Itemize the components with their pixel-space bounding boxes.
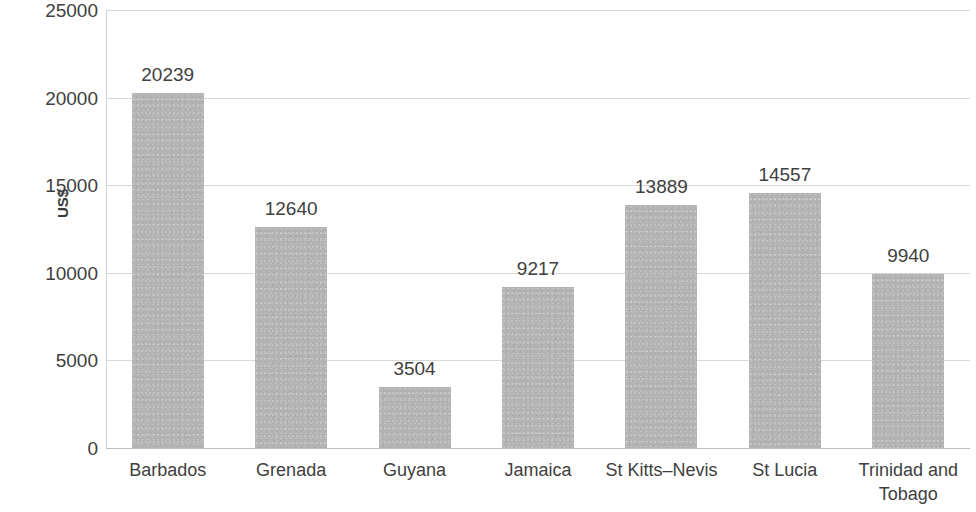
x-category-label: St Lucia — [723, 458, 847, 482]
y-tick-label: 0 — [12, 439, 98, 458]
x-category-label: Grenada — [229, 458, 353, 482]
x-axis-category-labels: BarbadosGrenadaGuyanaJamaicaSt Kitts–Nev… — [106, 458, 970, 512]
y-axis-tick-labels: 0500010000150002000025000 — [0, 0, 98, 512]
y-tick-label: 20000 — [12, 89, 98, 108]
bar — [132, 93, 204, 448]
y-tick-label: 10000 — [12, 264, 98, 283]
bar — [872, 274, 944, 448]
bar-series: 20239126403504921713889145579940 — [106, 10, 970, 448]
bar-value-label: 9940 — [848, 246, 968, 265]
bar-value-label: 20239 — [108, 65, 228, 84]
bar-value-label: 13889 — [601, 177, 721, 196]
bar-value-label: 12640 — [231, 199, 351, 218]
gridline — [106, 448, 970, 449]
bar — [255, 227, 327, 448]
bar-value-label: 3504 — [355, 359, 475, 378]
plot-area: 20239126403504921713889145579940 — [106, 10, 970, 448]
bar — [749, 193, 821, 448]
bar — [502, 287, 574, 448]
x-category-label: Jamaica — [476, 458, 600, 482]
bar-value-label: 14557 — [725, 165, 845, 184]
bar-chart: US$ 0500010000150002000025000 2023912640… — [0, 0, 976, 512]
bar — [625, 205, 697, 448]
y-tick-label: 25000 — [12, 1, 98, 20]
bar — [379, 387, 451, 448]
x-category-label: St Kitts–Nevis — [599, 458, 723, 482]
x-category-label: Trinidad and Tobago — [846, 458, 970, 507]
x-category-label: Barbados — [106, 458, 230, 482]
y-tick-label: 5000 — [12, 351, 98, 370]
y-tick-label: 15000 — [12, 176, 98, 195]
bar-value-label: 9217 — [478, 259, 598, 278]
x-category-label: Guyana — [353, 458, 477, 482]
